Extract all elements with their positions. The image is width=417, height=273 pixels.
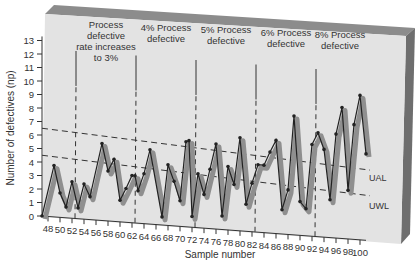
- data-point: [40, 214, 44, 218]
- x-tick-label: 62: [127, 230, 138, 241]
- data-point: [286, 188, 290, 192]
- phase-label: defective: [207, 35, 245, 46]
- phase-label: defective: [87, 30, 125, 41]
- data-point: [226, 165, 230, 169]
- data-point: [52, 164, 56, 168]
- y-tick-label: 1: [29, 197, 34, 208]
- data-point: [133, 174, 137, 178]
- data-point: [148, 148, 152, 152]
- x-tick-label: 78: [223, 237, 234, 248]
- data-point: [82, 182, 86, 186]
- data-point: [316, 131, 320, 135]
- data-point: [208, 167, 212, 171]
- x-tick-label: 94: [319, 244, 330, 255]
- phase-label: defective: [267, 38, 305, 49]
- data-point: [196, 172, 200, 176]
- phase-label: 4% Process: [141, 22, 192, 33]
- y-tick-label: 9: [29, 89, 34, 100]
- x-tick-label: 66: [151, 232, 162, 243]
- y-tick-label: 10: [23, 76, 34, 87]
- data-point: [118, 198, 122, 202]
- data-point: [76, 206, 80, 210]
- phase-label: to 3%: [94, 52, 119, 63]
- data-point: [250, 181, 254, 185]
- data-point: [244, 203, 248, 207]
- data-point: [274, 139, 278, 143]
- data-point: [232, 183, 236, 187]
- data-point: [70, 180, 74, 184]
- data-point: [160, 215, 164, 219]
- data-point: [142, 172, 146, 176]
- data-point: [64, 205, 68, 209]
- data-point: [172, 180, 176, 184]
- y-tick-label: 5: [29, 143, 34, 154]
- data-point: [262, 163, 266, 167]
- y-tick-label: 0: [29, 211, 34, 222]
- data-point: [346, 189, 350, 193]
- x-tick-label: 100: [352, 247, 368, 258]
- data-point: [166, 163, 170, 167]
- data-point: [292, 114, 296, 118]
- phase-label: defective: [147, 33, 185, 44]
- phase-label: 5% Process: [201, 24, 252, 35]
- data-point: [100, 142, 104, 146]
- y-tick-label: 2: [29, 184, 34, 195]
- x-tick-label: 70: [175, 233, 186, 244]
- x-axis-title: Sample number: [185, 249, 256, 260]
- data-point: [310, 143, 314, 147]
- y-tick-label: 13: [23, 35, 34, 46]
- x-tick-label: 64: [139, 231, 150, 242]
- limit-label-uwl: UWL: [369, 201, 389, 211]
- data-point: [328, 198, 332, 202]
- data-point: [106, 169, 110, 173]
- x-tick-label: 68: [163, 232, 174, 243]
- y-tick-label: 3: [29, 170, 34, 181]
- x-tick-label: 96: [331, 245, 342, 256]
- data-point: [238, 136, 242, 140]
- data-point: [88, 195, 92, 199]
- y-tick-label: 11: [24, 62, 34, 73]
- x-tick-label: 90: [295, 242, 306, 253]
- x-tick-label: 58: [103, 228, 114, 239]
- y-axis-title: Number of defectives (np): [5, 70, 16, 185]
- data-point: [352, 123, 356, 127]
- data-point: [340, 106, 344, 110]
- data-point: [112, 158, 116, 162]
- phase-label: rate increases: [76, 41, 136, 52]
- data-point: [268, 150, 272, 154]
- x-tick-label: 54: [79, 226, 90, 237]
- data-point: [220, 214, 224, 218]
- data-point: [364, 152, 368, 156]
- y-tick-label: 6: [29, 130, 34, 141]
- data-point: [136, 189, 140, 193]
- data-point: [187, 139, 191, 143]
- x-tick-label: 52: [67, 225, 78, 236]
- data-point: [58, 191, 62, 195]
- x-tick-label: 84: [259, 240, 270, 251]
- x-tick-label: 86: [271, 241, 282, 252]
- x-tick-label: 60: [115, 229, 126, 240]
- data-point: [280, 208, 284, 212]
- y-tick-label: 8: [29, 103, 34, 114]
- x-tick-label: 56: [91, 227, 102, 238]
- x-tick-label: 74: [199, 235, 210, 246]
- control-chart: 0123456789101112134850525456586062646668…: [0, 0, 417, 273]
- y-tick-label: 4: [29, 157, 34, 168]
- data-point: [334, 132, 338, 136]
- x-tick-label: 48: [43, 223, 54, 234]
- phase-label: Process: [89, 19, 124, 30]
- x-tick-label: 80: [235, 238, 246, 249]
- data-point: [124, 187, 128, 191]
- data-point: [214, 142, 218, 146]
- data-point: [202, 193, 206, 197]
- data-point: [190, 215, 194, 219]
- data-point: [322, 148, 326, 152]
- data-point: [256, 163, 260, 167]
- phase-label: 8% Process: [315, 29, 366, 40]
- x-tick-label: 76: [211, 236, 222, 247]
- y-tick-label: 12: [23, 49, 34, 60]
- phase-label: 6% Process: [261, 27, 312, 38]
- data-point: [178, 199, 182, 203]
- data-point: [358, 94, 362, 98]
- y-tick-label: 7: [29, 116, 34, 127]
